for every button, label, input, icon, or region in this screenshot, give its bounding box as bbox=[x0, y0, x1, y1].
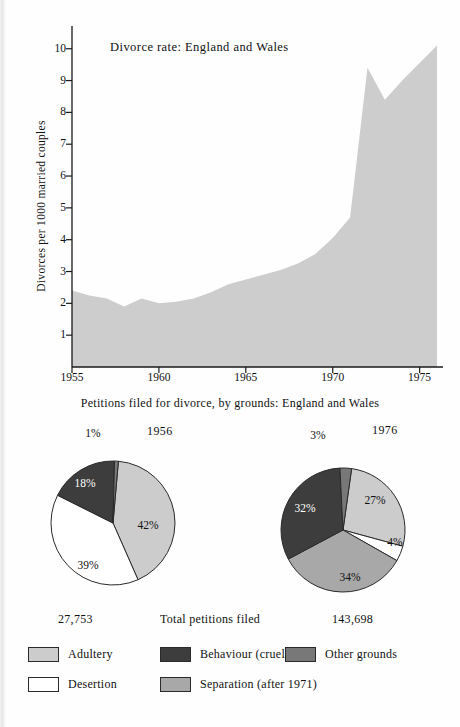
pie-slice-pct-behaviour-cruelty: 18% bbox=[74, 477, 95, 489]
y-axis-tick-labels: 12345678910 bbox=[40, 0, 72, 400]
pie-year-1956: 1956 bbox=[147, 424, 173, 439]
pie-slice-pct-behaviour-cruelty: 32% bbox=[294, 502, 315, 514]
x-axis-tick-labels: 19551960196519701975 bbox=[0, 365, 460, 387]
total-petitions-1976: 143,698 bbox=[332, 612, 373, 627]
legend-label-separation-after-1971: Separation (after 1971) bbox=[200, 677, 317, 692]
legend-swatch-adultery bbox=[28, 647, 59, 662]
legend-item-other-grounds: Other grounds bbox=[285, 647, 397, 662]
x-tick-1965: 1965 bbox=[224, 371, 268, 383]
page-root: Divorce rate: England and Wales Divorces… bbox=[0, 0, 460, 727]
divorce-rate-area-chart: Divorce rate: England and Wales Divorces… bbox=[0, 0, 460, 400]
legend-swatch-separation-after-1971 bbox=[160, 677, 191, 692]
pies-caption: Petitions filed for divorce, by grounds:… bbox=[0, 396, 460, 411]
x-tick-1975: 1975 bbox=[398, 371, 442, 383]
y-tick-10: 10 bbox=[40, 43, 66, 55]
legend-item-adultery: Adultery bbox=[28, 647, 113, 662]
pie-chart-group: 1956 1976 42%39%18%1%27%4%34%32%3% bbox=[0, 425, 460, 625]
legend-label-adultery: Adultery bbox=[68, 647, 113, 662]
pie-slice-pct-separation-after-1971: 34% bbox=[339, 571, 360, 583]
pie-slice-pct-other-grounds: 3% bbox=[310, 429, 325, 441]
legend-item-separation-after-1971: Separation (after 1971) bbox=[160, 677, 317, 692]
y-tick-4: 4 bbox=[40, 234, 66, 246]
legend-swatch-desertion bbox=[28, 677, 59, 692]
y-tick-6: 6 bbox=[40, 170, 66, 182]
legend-item-desertion: Desertion bbox=[28, 677, 117, 692]
y-tick-2: 2 bbox=[40, 298, 66, 310]
legend-label-desertion: Desertion bbox=[68, 677, 117, 692]
y-tick-5: 5 bbox=[40, 202, 66, 214]
pie-year-1976: 1976 bbox=[372, 423, 398, 438]
legend-item-behaviour-cruelty: Behaviour (cruelty) bbox=[160, 647, 299, 662]
legend-swatch-behaviour-cruelty bbox=[160, 647, 191, 662]
y-tick-7: 7 bbox=[40, 138, 66, 150]
pie-slice-pct-desertion: 39% bbox=[77, 559, 98, 571]
chart-title: Divorce rate: England and Wales bbox=[110, 40, 410, 55]
y-tick-3: 3 bbox=[40, 266, 66, 278]
pie-chart-canvas bbox=[0, 425, 460, 625]
legend: AdulteryDesertionBehaviour (cruelty)Sepa… bbox=[0, 641, 460, 721]
x-tick-1960: 1960 bbox=[137, 371, 181, 383]
y-tick-9: 9 bbox=[40, 75, 66, 87]
x-tick-1955: 1955 bbox=[50, 371, 94, 383]
pie-slice-pct-desertion: 4% bbox=[387, 536, 402, 548]
pie-slice-pct-adultery: 42% bbox=[137, 519, 158, 531]
x-tick-1970: 1970 bbox=[311, 371, 355, 383]
pie-slice-pct-adultery: 27% bbox=[364, 494, 385, 506]
total-petitions-1956: 27,753 bbox=[58, 612, 93, 627]
legend-swatch-other-grounds bbox=[285, 647, 316, 662]
y-tick-8: 8 bbox=[40, 107, 66, 119]
total-petitions-label: Total petitions filed bbox=[160, 612, 260, 627]
totals-row: 27,753 Total petitions filed 143,698 bbox=[0, 612, 460, 632]
pie-slice-pct-other-grounds: 1% bbox=[85, 427, 100, 439]
legend-label-other-grounds: Other grounds bbox=[325, 647, 397, 662]
y-tick-1: 1 bbox=[40, 329, 66, 341]
